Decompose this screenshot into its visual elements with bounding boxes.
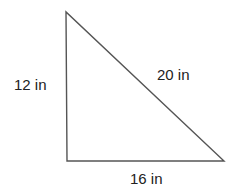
right-triangle (66, 12, 224, 161)
vertical-side-label: 12 in (14, 76, 47, 93)
hypotenuse-label: 20 in (157, 66, 190, 83)
horizontal-side-label: 16 in (130, 170, 163, 187)
triangle-diagram: 12 in 20 in 16 in (0, 0, 236, 196)
